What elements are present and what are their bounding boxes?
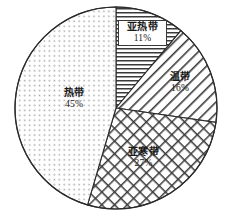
pie-label-temperate-percent: 16% bbox=[160, 83, 200, 93]
pie-label-subarctic-name: 亚寒带 bbox=[121, 147, 166, 158]
pie-label-subtropical: 亚热带 11% bbox=[118, 20, 167, 46]
pie-label-subarctic: 亚寒带 27% bbox=[119, 146, 168, 170]
pie-label-subtropical-percent: 11% bbox=[121, 33, 164, 43]
pie-label-temperate-name: 温带 bbox=[160, 72, 200, 83]
pie-chart: 亚热带 11% 温带 16% 亚寒带 27% 热带 45% bbox=[0, 0, 228, 214]
pie-label-subarctic-percent: 27% bbox=[121, 158, 166, 168]
pie-label-temperate: 温带 16% bbox=[158, 71, 202, 95]
pie-label-tropical: 热带 45% bbox=[53, 87, 95, 111]
pie-chart-graphic bbox=[0, 0, 228, 214]
pie-slices bbox=[15, 7, 217, 209]
pie-label-tropical-name: 热带 bbox=[55, 88, 93, 99]
pie-label-tropical-percent: 45% bbox=[55, 99, 93, 109]
pie-label-subtropical-name: 亚热带 bbox=[121, 22, 164, 33]
